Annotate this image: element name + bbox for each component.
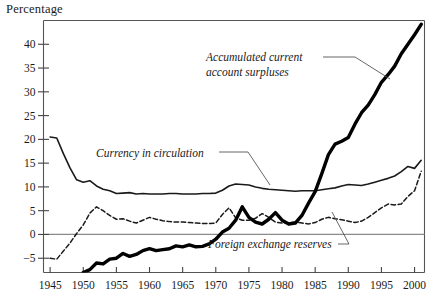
annotation-currency-label: Currency in circulation [96,147,204,160]
x-tick-label: 1955 [105,279,128,291]
x-tick-label: 1995 [370,279,393,291]
y-tick-label: 20 [24,133,36,145]
series-line-currency-in-circulation [50,137,421,194]
x-tick-label: 1990 [337,279,360,291]
x-tick-label: 1970 [204,279,227,291]
x-tick-label: 2000 [403,279,426,291]
annotation-reserves-leader [332,212,349,244]
y-tick-label: 40 [24,38,36,50]
x-tick-label: 1950 [72,279,95,291]
annotation-accumulated-line2: account surpluses [206,66,289,79]
annotation-accumulated-leader [323,57,390,79]
annotation-accumulated-line1: Accumulated current [205,51,303,63]
y-tick-label: 15 [24,157,36,169]
chart-canvas: −505101520253035401945195019551960196519… [0,0,438,301]
x-tick-label: 1960 [138,279,161,291]
x-tick-label: 1975 [237,279,260,291]
y-tick-label: 10 [24,181,36,193]
y-tick-label: 5 [30,205,36,217]
annotation-currency-leader [219,152,270,185]
y-tick-label: 30 [24,86,36,98]
x-tick-label: 1965 [171,279,194,291]
x-tick-label: 1945 [39,279,62,291]
chart-figure: Percentage −5051015202530354019451950195… [0,0,438,301]
x-tick-label: 1985 [304,279,327,291]
annotation-reserves-label: Foreign exchange reserves [207,238,332,251]
y-tick-label: 35 [24,62,36,74]
y-tick-label: 0 [30,228,36,240]
x-tick-label: 1980 [271,279,294,291]
y-tick-label: −5 [23,252,35,264]
y-axis-unit-label: Percentage [6,2,63,17]
y-tick-label: 25 [24,110,36,122]
